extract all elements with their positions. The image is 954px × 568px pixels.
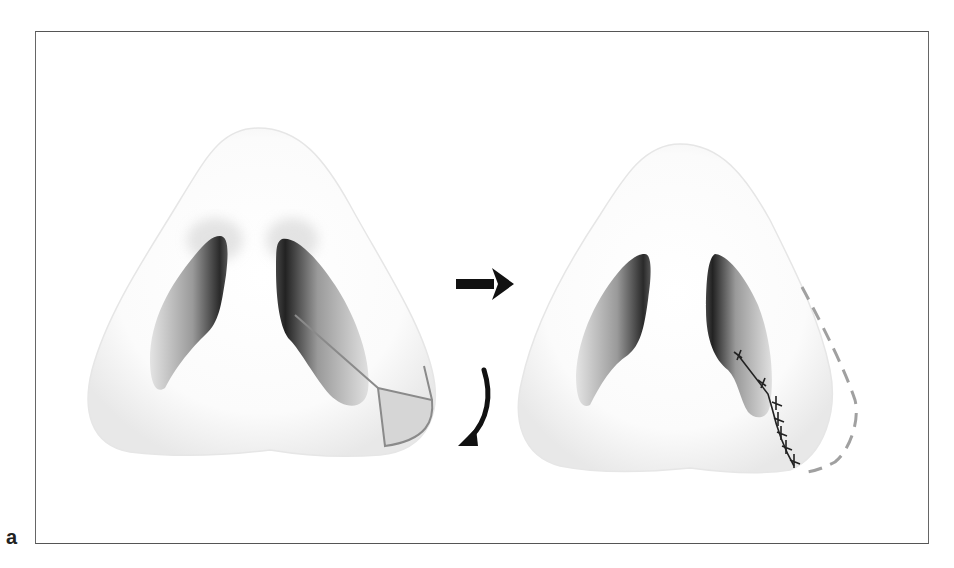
nose-after <box>518 144 856 473</box>
diagram-canvas <box>0 0 954 568</box>
nose-before <box>88 128 435 456</box>
rotation-arrow-icon <box>458 370 488 446</box>
transition-arrow <box>456 268 514 300</box>
nasal-base-outline-after <box>518 144 832 473</box>
